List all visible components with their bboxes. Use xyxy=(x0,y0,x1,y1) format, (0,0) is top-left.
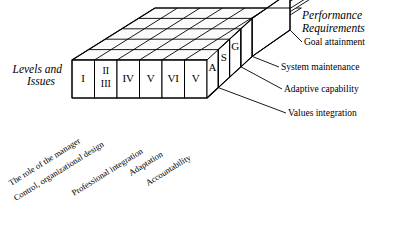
isometric-block-figure: I II III IV V VI V A S G Performance Req… xyxy=(0,0,393,249)
leader-system-maintenance xyxy=(252,56,279,67)
bottom-axis-labels: The role of the manager Control, organiz… xyxy=(7,135,193,202)
front-label-III: III xyxy=(101,78,111,89)
diagram-canvas: I II III IV V VI V A S G Performance Req… xyxy=(0,0,393,249)
left-axis-title: Levels and Issues xyxy=(11,63,62,87)
left-axis-title-line-1: Levels and xyxy=(11,63,62,75)
right-axis-title: Performance Requirements xyxy=(301,9,365,35)
front-label-V: V xyxy=(147,72,155,84)
leader-goal-attainment xyxy=(290,30,302,42)
front-label-I: I xyxy=(81,72,85,84)
right-axis-title-line-1: Performance xyxy=(301,9,362,22)
right-label-goal-attainment: Goal attainment xyxy=(304,37,365,47)
right-label-adaptive-capability: Adaptive capability xyxy=(284,84,359,94)
leader-adaptive-capability xyxy=(241,67,282,89)
right-label-values-integration: Values integration xyxy=(288,108,357,118)
left-axis-title-line-2: Issues xyxy=(26,75,56,87)
step-label-A: A xyxy=(209,61,217,73)
front-label-VI: VI xyxy=(167,72,179,84)
leader-values-integration xyxy=(218,88,286,113)
right-labels: Goal attainment System maintenance Adapt… xyxy=(281,37,365,118)
right-axis-title-line-2: Requirements xyxy=(301,22,365,35)
front-label-II: II xyxy=(102,65,109,76)
front-label-IV: IV xyxy=(122,72,134,84)
front-face-cells xyxy=(72,60,207,98)
step-label-G: G xyxy=(231,40,239,52)
step-label-V: V xyxy=(192,72,200,84)
step-label-S: S xyxy=(221,51,227,63)
right-label-system-maintenance: System maintenance xyxy=(281,62,359,72)
